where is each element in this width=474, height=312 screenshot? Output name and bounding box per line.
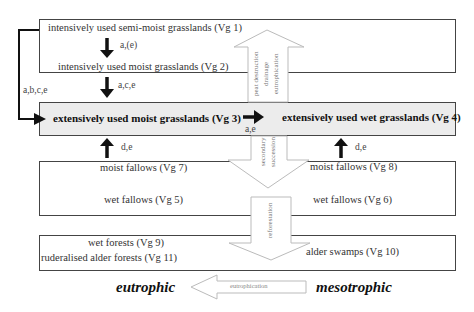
label-vg2: intensively used moist grasslands (Vg 2) [58,61,229,72]
label-vg5: wet fallows (Vg 5) [104,194,183,205]
side-connector-arrow [19,30,44,119]
label-vg9: wet forests (Vg 9) [88,237,164,248]
label-vg4: extensively used wet grasslands (Vg 4) [282,111,461,123]
arrow-label-vg8-vg4: d,e [355,142,366,152]
label-vg11: ruderalised alder forests (Vg 11) [41,252,177,263]
secondary-arrow-text-1: secondary [259,137,267,167]
arrow-label-vg3-vg4: a,e [245,124,256,134]
up-arrow-text-3: eutrophication [272,48,280,100]
label-eutrophic: eutrophic [116,279,175,296]
secondary-arrow-text-2: succession [269,137,277,167]
label-vg10: alder swamps (Vg 10) [306,246,399,257]
arrow-label-vg1-vg2: a,(e) [120,40,137,50]
label-vg3: extensively used moist grasslands (Vg 3) [53,112,241,124]
arrow-label-side: a,b,c,e [23,85,48,95]
reforestation-arrow-text: reforestation [266,200,274,240]
arrow-label-vg2-vg3: a,c,e [118,80,135,90]
diagram-graphics [0,0,474,312]
label-vg8: moist fallows (Vg 8) [310,161,397,172]
up-arrow-text-1: peat destruction [252,48,260,100]
up-arrow-text-2: drainage [262,48,270,100]
label-vg1: intensively used semi-moist grasslands (… [48,22,242,33]
label-vg6: wet fallows (Vg 6) [313,194,392,205]
eutrophication-arrow-text: eutrophication [230,282,268,289]
arrow-label-vg7-vg3: d,e [121,142,132,152]
label-vg7: moist fallows (Vg 7) [100,162,187,173]
label-mesotrophic: mesotrophic [316,279,392,296]
